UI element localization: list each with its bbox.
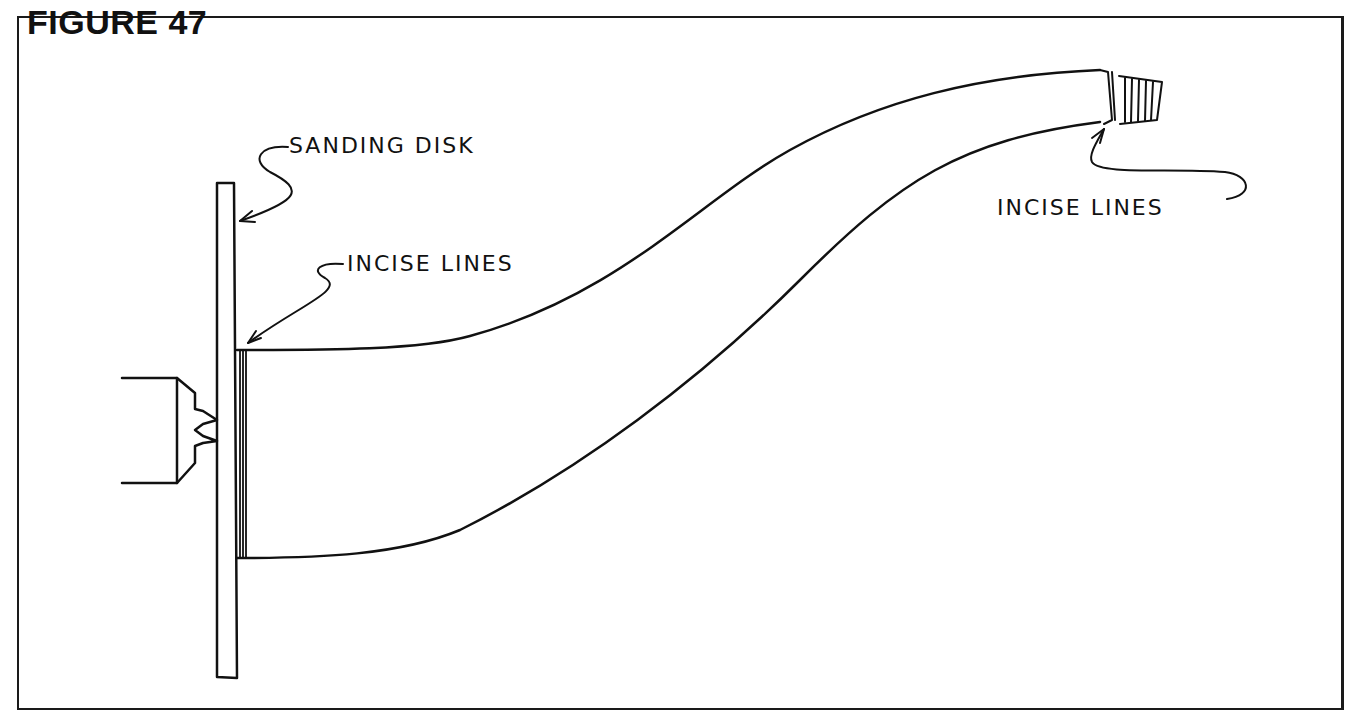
sanding-disk-shape xyxy=(217,183,237,678)
incise-lines-left-shape xyxy=(240,350,246,558)
incise-lines-left-label: INCISE LINES xyxy=(347,251,514,276)
drawing-canvas xyxy=(0,0,1353,719)
motor-shaft-icon xyxy=(122,378,217,483)
incise-lines-right-label: INCISE LINES xyxy=(997,195,1164,220)
incise-lines-left-leader-icon xyxy=(248,264,343,343)
threaded-tip-shape xyxy=(1100,70,1162,124)
sanding-disk-leader-icon xyxy=(240,147,292,222)
sanding-disk-label: SANDING DISK xyxy=(289,133,475,158)
incise-lines-right-leader-icon xyxy=(1091,129,1246,199)
